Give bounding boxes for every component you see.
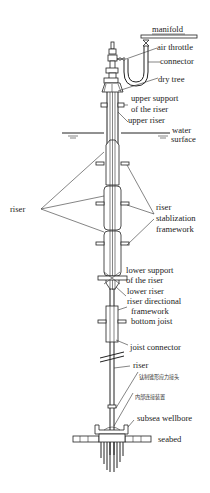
seabed-icon	[73, 434, 151, 472]
label-upper-riser: upper riser	[128, 115, 165, 125]
break-symbol-icon	[100, 352, 124, 362]
manifold-icon	[141, 35, 197, 38]
label-lower-support-line2: of the riser	[126, 275, 163, 285]
label-lower-support-line1: lower support	[126, 265, 174, 275]
label-connector: connector	[160, 56, 194, 66]
directional-framework-icon	[98, 306, 126, 342]
label-stress-joint-cn: 钛制锥形应力接头	[139, 373, 179, 381]
subsea-wellbore-icon	[95, 425, 128, 434]
riser-buoyancy-sections	[104, 140, 121, 290]
label-joist-connector: joist connector	[129, 342, 181, 352]
label-stabilization-line1: riser	[156, 202, 171, 212]
label-lower-riser: lower riser	[127, 286, 164, 296]
label-water-surface-line2: surface	[171, 134, 196, 144]
air-throttle-icon	[143, 40, 149, 46]
label-upper-support-line1: upper support	[131, 93, 179, 103]
label-riser-lower: riser	[133, 360, 148, 370]
label-riser-left: riser	[10, 204, 25, 214]
label-stabilization-line3: framework	[156, 224, 194, 234]
riser-system-diagram: manifold air throttle connector dry tree…	[0, 0, 210, 493]
label-stabilization-line2: stablization	[156, 213, 196, 223]
label-subsea-wellbore: subsea wellbore	[137, 413, 192, 423]
water-surface-icon	[62, 133, 170, 138]
label-dry-tree: dry tree	[158, 74, 185, 84]
stress-joint-icon	[108, 405, 116, 408]
label-upper-support-line2: of the riser	[131, 104, 168, 114]
label-air-throttle: air throttle	[157, 42, 193, 52]
label-seabed: seabed	[158, 434, 182, 444]
label-directional-line1: riser directional	[127, 296, 182, 306]
diagram-canvas: manifold air throttle connector dry tree…	[0, 0, 210, 493]
label-manifold: manifold	[152, 24, 184, 34]
label-directional-line3: bottom joist	[131, 316, 173, 326]
label-internal-connector-cn: 内部连接装置	[135, 393, 165, 401]
dry-tree-icon	[102, 42, 123, 92]
label-directional-line2: framework	[131, 306, 169, 316]
